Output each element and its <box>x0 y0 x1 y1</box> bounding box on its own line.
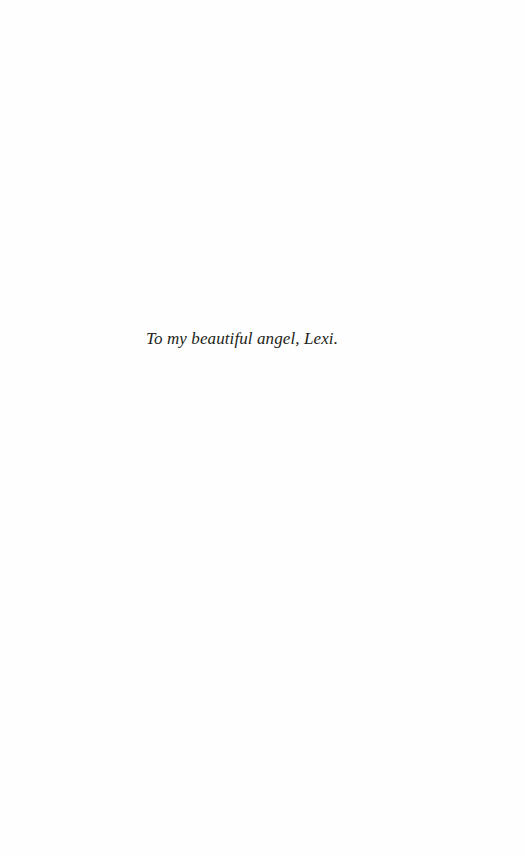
dedication-text: To my beautiful angel, Lexi. <box>0 326 484 352</box>
book-page: To my beautiful angel, Lexi. <box>0 0 525 856</box>
